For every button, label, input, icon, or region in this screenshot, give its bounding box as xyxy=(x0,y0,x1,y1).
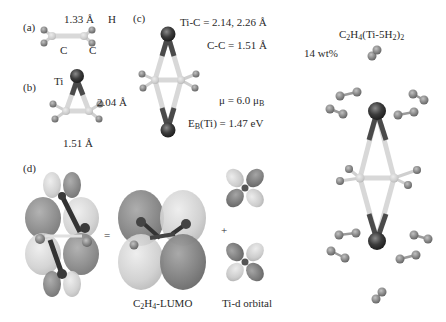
ti-d-orbital-label: Ti-d orbital xyxy=(222,297,272,309)
weight-percent-label: 14 wt% xyxy=(304,47,338,59)
cc-single-bond-length: 1.51 Å xyxy=(63,137,93,149)
magnetic-moment-label: μ = 6.0 μB xyxy=(219,94,264,106)
equals-sign: = xyxy=(104,229,110,241)
panel-c-tag: (c) xyxy=(133,12,145,24)
cc-double-bond-length: 1.33 Å xyxy=(64,13,94,25)
magnetic-moment-text: μ = 6.0 μ xyxy=(219,94,259,106)
c-c-distance-label: C-C = 1.51 Å xyxy=(207,39,267,51)
binding-energy-value: (Ti) = 1.47 eV xyxy=(200,117,263,129)
plus-sign: + xyxy=(221,224,227,236)
carbon-atom-label-2: C xyxy=(89,44,96,56)
panel-d-tag: (d) xyxy=(23,162,36,174)
formula-mid: (Ti-5H xyxy=(362,28,392,40)
magnetic-moment-sub: B xyxy=(259,99,264,108)
lumo-rest: -LUMO xyxy=(156,297,192,309)
carbon-atom-label-1: C xyxy=(60,44,67,56)
formula-sub-outer: 2 xyxy=(400,33,404,42)
binding-energy-label: EB(Ti) = 1.47 eV xyxy=(188,117,263,129)
binding-energy-prefix: E xyxy=(188,117,195,129)
ethylene-lumo-label: C2H4-LUMO xyxy=(133,297,192,309)
ti-d-orbital-top xyxy=(222,165,267,211)
panel-a-tag: (a) xyxy=(23,21,35,33)
ti-c-bond-length: 2.04 Å xyxy=(97,96,127,108)
hydrogenated-complex xyxy=(326,46,433,304)
titanium-atom-label: Ti xyxy=(54,75,63,87)
ethylene-lumo-orbital xyxy=(118,190,206,290)
panel-b-tag: (b) xyxy=(23,81,36,93)
ethylene-molecule xyxy=(41,27,96,47)
ti-d-orbital-bottom xyxy=(222,239,267,285)
combined-orbital xyxy=(25,172,99,297)
ti-c-distance-label: Ti-C = 2.14, 2.26 Å xyxy=(180,16,267,28)
hydrogen-atom-label: H xyxy=(108,13,116,25)
complex-formula-title: C2H4(Ti-5H2)2 xyxy=(339,28,404,40)
